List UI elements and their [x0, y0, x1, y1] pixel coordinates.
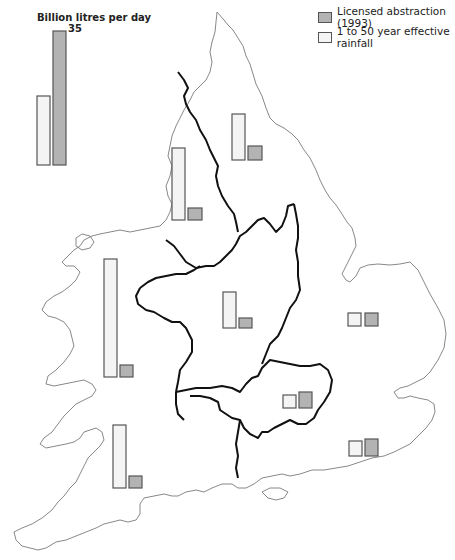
bar-abstraction-north-west [188, 208, 202, 220]
bar-rainfall-southern [349, 441, 362, 456]
region-bars-south-west [113, 425, 142, 488]
bar-abstraction-anglian [365, 313, 378, 326]
boundary-northumbria-northwest [178, 72, 238, 232]
region-bars-northumbria [232, 114, 262, 160]
legend-item-abstraction: Licensed abstraction (1993) [318, 8, 455, 26]
bar-abstraction-south-west [129, 476, 142, 488]
water-resources-map: Billion litres per day 35 [0, 0, 455, 560]
bar-rainfall-welsh [104, 259, 117, 377]
legend-swatch-rainfall [318, 32, 332, 43]
coastline [14, 12, 446, 550]
bar-abstraction-thames [299, 392, 312, 408]
region-bars-welsh [104, 259, 133, 377]
legend-item-rainfall: 1 to 50 year effective rainfall [318, 28, 455, 46]
bar-abstraction-severn-trent [239, 318, 252, 328]
scale-max-label: 35 [68, 23, 82, 34]
region-bars-severn-trent [223, 292, 252, 328]
bar-rainfall-northumbria [232, 114, 245, 160]
bar-abstraction-southern [365, 439, 378, 456]
boundary-welsh-midlands [136, 266, 200, 392]
legend-swatch-abstraction [318, 12, 332, 23]
region-bars-southern [349, 439, 378, 456]
scale-unit-label: Billion litres per day [37, 12, 152, 23]
bar-abstraction-northumbria [248, 146, 262, 160]
bar-rainfall-north-west [172, 148, 185, 220]
region-bars-north-west [172, 148, 202, 220]
boundary-southern-southwest [236, 420, 240, 478]
scale-key: Billion litres per day 35 [37, 12, 152, 165]
bar-rainfall-severn-trent [223, 292, 236, 328]
scale-bar-abstraction [53, 31, 66, 165]
bar-rainfall-anglian [348, 313, 361, 326]
bar-rainfall-south-west [113, 425, 126, 488]
legend-label-rainfall: 1 to 50 year effective rainfall [337, 25, 455, 49]
region-bars-anglian [348, 313, 378, 326]
boundary-wessex [176, 392, 184, 420]
scale-bar-rainfall [37, 96, 50, 165]
bar-abstraction-welsh [120, 365, 133, 377]
bar-rainfall-thames [283, 395, 296, 408]
legend: Licensed abstraction (1993) 1 to 50 year… [318, 8, 455, 48]
region-bars-thames [283, 392, 312, 408]
isle-of-wight [262, 488, 288, 500]
